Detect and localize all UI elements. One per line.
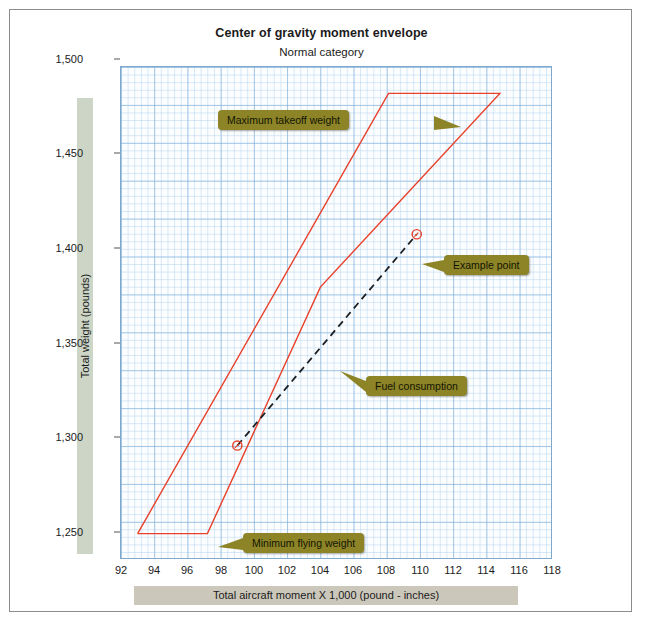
callout-minimum-flying-weight[interactable]: Minimum flying weight xyxy=(243,533,364,553)
y-tick-label: 1,250 xyxy=(23,526,83,538)
chart-title: Center of gravity moment envelope xyxy=(10,26,633,40)
y-axis-label: Total weight (pounds) xyxy=(77,98,93,554)
y-tick-label: 1,500 xyxy=(23,53,83,65)
y-tick-label: 1,400 xyxy=(23,242,83,254)
chart-subtitle: Normal category xyxy=(10,46,633,58)
fuel-consumption-line xyxy=(237,234,416,445)
y-tick-mark xyxy=(114,59,120,60)
example-point-lower-tick xyxy=(235,444,239,448)
callout-example-point[interactable]: Example point xyxy=(444,255,529,275)
plot-graphics xyxy=(121,67,552,559)
callout-maximum-takeoff-weight[interactable]: Maximum takeoff weight xyxy=(218,110,349,130)
figure-frame: Center of gravity moment envelope Normal… xyxy=(9,9,632,612)
x-axis-label: Total aircraft moment X 1,000 (pound - i… xyxy=(134,586,518,605)
y-tick-label: 1,450 xyxy=(23,147,83,159)
y-axis-label-bar: Total weight (pounds) xyxy=(77,98,93,554)
y-tick-label: 1,300 xyxy=(23,431,83,443)
cg-envelope-polygon xyxy=(138,93,500,533)
example-point-upper-tick xyxy=(414,233,418,237)
x-axis-label-bar: Total aircraft moment X 1,000 (pound - i… xyxy=(134,586,518,605)
callout-fuel-consumption[interactable]: Fuel consumption xyxy=(366,376,467,396)
y-tick-label: 1,350 xyxy=(23,337,83,349)
x-tick-label: 118 xyxy=(532,564,572,576)
plot-area xyxy=(120,66,552,559)
